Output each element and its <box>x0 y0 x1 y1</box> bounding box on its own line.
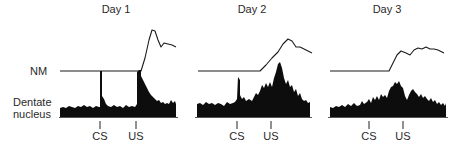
histogram-day3 <box>330 81 446 117</box>
nm-trace-day2 <box>198 39 312 71</box>
cs-label-day1: CS <box>85 130 115 142</box>
chart-svg <box>0 0 463 148</box>
us-label-day2: US <box>256 130 286 142</box>
histogram-day1 <box>60 70 176 117</box>
nm-trace-day1 <box>60 30 176 71</box>
cs-label-day2: CS <box>222 130 252 142</box>
nm-traces <box>60 30 444 71</box>
cs-label-day3: CS <box>354 130 384 142</box>
histogram-day2 <box>197 62 310 117</box>
us-label-day1: US <box>121 130 151 142</box>
figure: Day 1 Day 2 Day 3 NM Dentate nucleus <box>0 0 463 148</box>
histograms <box>60 62 446 117</box>
event-ticks <box>100 121 403 129</box>
us-label-day3: US <box>388 130 418 142</box>
nm-trace-day3 <box>330 47 444 71</box>
